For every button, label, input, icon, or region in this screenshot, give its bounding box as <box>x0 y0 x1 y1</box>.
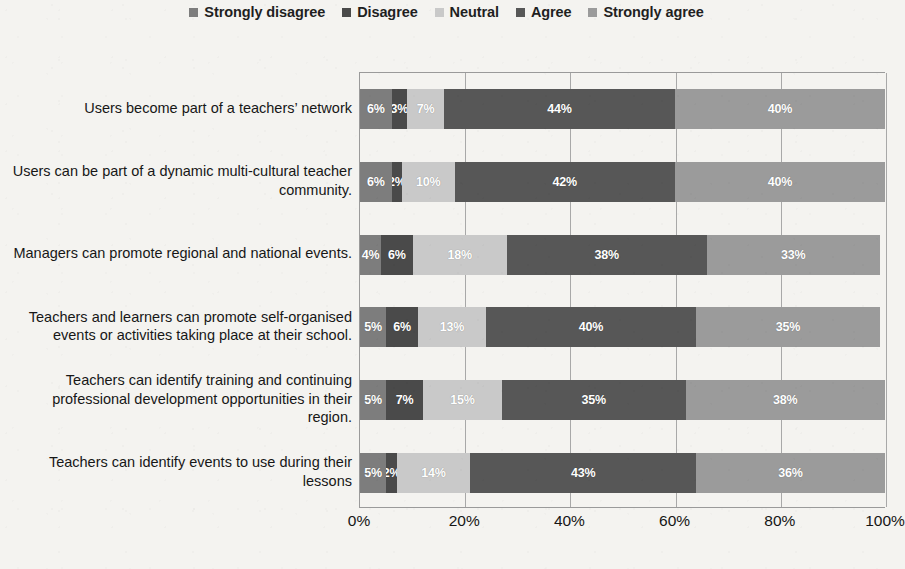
category-label-text: Teachers can identify training and conti… <box>8 371 352 427</box>
bar-segment-value-label: 6% <box>388 248 406 262</box>
bar-segment-value-label: 43% <box>571 466 595 480</box>
bar-segment[interactable]: 3% <box>392 89 408 129</box>
bar-row[interactable]: 5%7%15%35%38% <box>360 380 885 420</box>
bar-segment[interactable]: 18% <box>413 235 508 275</box>
bar-segment[interactable]: 6% <box>360 162 392 202</box>
bar-segment[interactable]: 5% <box>360 307 386 347</box>
bar-segment[interactable]: 6% <box>381 235 413 275</box>
bar-segment-value-label: 35% <box>776 320 800 334</box>
legend-item[interactable]: Neutral <box>435 4 499 20</box>
bar-segment-value-label: 2% <box>386 466 397 480</box>
category-label-text: Users can be part of a dynamic multi-cul… <box>8 162 352 199</box>
category-label: Users become part of a teachers’ network <box>8 72 352 145</box>
x-axis-tick-label: 40% <box>554 512 585 530</box>
category-label: Teachers and learners can promote self-o… <box>8 290 352 363</box>
legend-item[interactable]: Agree <box>516 4 572 20</box>
bar-segment-value-label: 2% <box>392 175 403 189</box>
x-axis-tick-label: 100% <box>865 512 905 530</box>
bar-segment-value-label: 40% <box>579 320 603 334</box>
category-axis-labels: Users become part of a teachers’ network… <box>8 72 352 508</box>
x-axis-tick-label: 60% <box>659 512 690 530</box>
bar-segment[interactable]: 35% <box>502 380 686 420</box>
category-label-text: Teachers and learners can promote self-o… <box>8 308 352 345</box>
bar-segment-value-label: 13% <box>440 320 464 334</box>
bar-segment-value-label: 6% <box>367 175 385 189</box>
bar-segment[interactable]: 7% <box>386 380 423 420</box>
legend-swatch-icon <box>516 8 525 17</box>
bar-segment[interactable]: 35% <box>696 307 880 347</box>
bar-segment[interactable]: 36% <box>696 453 885 493</box>
bar-segment[interactable]: 15% <box>423 380 502 420</box>
bar-segment[interactable]: 10% <box>402 162 455 202</box>
bar-segment[interactable]: 44% <box>444 89 675 129</box>
bar-segment-value-label: 5% <box>364 320 382 334</box>
legend-item-label: Agree <box>531 4 572 20</box>
bar-segment[interactable]: 6% <box>386 307 418 347</box>
bar-segment[interactable]: 6% <box>360 89 392 129</box>
bar-segment-value-label: 6% <box>367 102 385 116</box>
category-label: Teachers can identify events to use duri… <box>8 435 352 508</box>
bar-segment-value-label: 44% <box>547 102 571 116</box>
bar-segment-value-label: 5% <box>364 393 382 407</box>
category-label-text: Managers can promote regional and nation… <box>13 244 352 263</box>
category-label: Users can be part of a dynamic multi-cul… <box>8 145 352 218</box>
bar-segment-value-label: 3% <box>392 102 408 116</box>
bar-segment-value-label: 40% <box>768 175 792 189</box>
legend-item[interactable]: Disagree <box>342 4 417 20</box>
bar-row[interactable]: 5%6%13%40%35% <box>360 307 885 347</box>
legend-item-label: Strongly disagree <box>204 4 325 20</box>
bar-segment-value-label: 6% <box>393 320 411 334</box>
bar-segment-value-label: 7% <box>417 102 435 116</box>
gridline <box>886 73 887 507</box>
legend-swatch-icon <box>189 8 198 17</box>
bar-segment-value-label: 5% <box>364 466 382 480</box>
bar-segment-value-label: 38% <box>773 393 797 407</box>
bar-segment[interactable]: 33% <box>707 235 880 275</box>
bar-segment-value-label: 15% <box>450 393 474 407</box>
bar-segment[interactable]: 38% <box>686 380 886 420</box>
x-axis-tick-label: 80% <box>764 512 795 530</box>
bar-row[interactable]: 6%3%7%44%40% <box>360 89 885 129</box>
bar-row[interactable]: 5%2%14%43%36% <box>360 453 885 493</box>
bar-segment[interactable]: 4% <box>360 235 381 275</box>
bar-segment-value-label: 38% <box>595 248 619 262</box>
bar-segment[interactable]: 2% <box>392 162 403 202</box>
bar-segment[interactable]: 38% <box>507 235 707 275</box>
bar-segment[interactable]: 5% <box>360 453 386 493</box>
bar-segment[interactable]: 40% <box>675 162 885 202</box>
legend-item-label: Strongly agree <box>603 4 703 20</box>
bar-segment[interactable]: 7% <box>407 89 444 129</box>
bar-segment[interactable]: 43% <box>470 453 696 493</box>
bar-segment[interactable]: 40% <box>486 307 696 347</box>
bar-row[interactable]: 6%2%10%42%40% <box>360 162 885 202</box>
legend-swatch-icon <box>342 8 351 17</box>
legend-item-label: Neutral <box>450 4 499 20</box>
legend-item-label: Disagree <box>357 4 417 20</box>
legend-swatch-icon <box>588 8 597 17</box>
legend-item[interactable]: Strongly disagree <box>189 4 325 20</box>
x-axis-tick-label: 20% <box>449 512 480 530</box>
plot-area: 6%3%7%44%40%6%2%10%42%40%4%6%18%38%33%5%… <box>359 72 885 508</box>
bar-segment[interactable]: 2% <box>386 453 397 493</box>
category-label-text: Users become part of a teachers’ network <box>84 99 352 118</box>
bar-segment-value-label: 14% <box>421 466 445 480</box>
bar-segment[interactable]: 40% <box>675 89 885 129</box>
chart-legend: Strongly disagreeDisagreeNeutralAgreeStr… <box>0 4 893 20</box>
bars-layer: 6%3%7%44%40%6%2%10%42%40%4%6%18%38%33%5%… <box>360 73 885 507</box>
bar-segment-value-label: 10% <box>416 175 440 189</box>
x-axis-tick-labels: 0%20%40%60%80%100% <box>359 512 885 540</box>
bar-segment-value-label: 35% <box>581 393 605 407</box>
bar-segment[interactable]: 5% <box>360 380 386 420</box>
bar-segment[interactable]: 42% <box>455 162 676 202</box>
legend-item[interactable]: Strongly agree <box>588 4 703 20</box>
bar-row[interactable]: 4%6%18%38%33% <box>360 235 885 275</box>
legend-swatch-icon <box>435 8 444 17</box>
category-label: Teachers can identify training and conti… <box>8 363 352 436</box>
category-label: Managers can promote regional and nation… <box>8 217 352 290</box>
bar-segment[interactable]: 13% <box>418 307 486 347</box>
bar-segment[interactable]: 14% <box>397 453 471 493</box>
bar-segment-value-label: 4% <box>362 248 380 262</box>
bar-segment-value-label: 40% <box>768 102 792 116</box>
bar-segment-value-label: 7% <box>396 393 414 407</box>
